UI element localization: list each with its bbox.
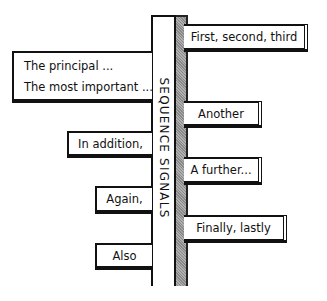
signpost-pole-shadow	[176, 15, 188, 286]
sign-label-line-2: The most important ...	[24, 80, 153, 94]
sign-finally-lastly: Finally, lastly	[184, 215, 287, 241]
sign-label: A further...	[190, 163, 251, 177]
sign-first-second-third: First, second, third	[184, 24, 308, 50]
sign-principal: The principal ... The most important ...	[12, 51, 152, 101]
sign-label: Finally, lastly	[196, 221, 271, 235]
sign-label: Also	[112, 249, 136, 263]
sign-a-further: A further...	[184, 157, 262, 183]
sign-also: Also	[95, 243, 152, 268]
sign-again: Again,	[95, 186, 152, 212]
signpost-title: SEQUENCE SIGNALS	[157, 78, 171, 219]
sign-label: Again,	[106, 192, 142, 206]
sign-label: In addition,	[78, 137, 143, 151]
sign-label: Another	[198, 107, 244, 121]
sign-label: First, second, third	[191, 30, 298, 44]
sign-another: Another	[184, 101, 262, 126]
sign-in-addition: In addition,	[67, 131, 152, 156]
sign-label-line-1: The principal ...	[24, 59, 113, 73]
